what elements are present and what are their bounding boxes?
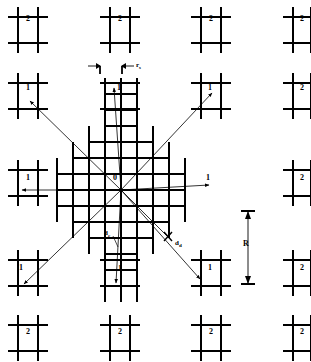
cell-label-r1c3: 2: [300, 84, 304, 92]
cell-label-r0c3: 2: [300, 15, 304, 23]
cell-label-r2c0: 1: [26, 174, 30, 182]
reuse-distance-label: R: [243, 240, 249, 248]
lattice-cell: [283, 73, 311, 119]
distance-dc-subscript: c: [108, 233, 110, 238]
cell-label-r4c3: 2: [300, 328, 304, 336]
cell-label-r0c1: 2: [118, 15, 122, 23]
cochannel-arrow-nw: [30, 101, 121, 190]
cell-radius-label: rs: [136, 62, 141, 69]
inner-marker-arrow: [121, 190, 172, 241]
lattice-cell: [8, 250, 48, 296]
cell-label-r3c0: 1: [19, 264, 23, 272]
lattice-cell: [283, 315, 311, 361]
cell-label-r3c3: 2: [300, 264, 304, 272]
lattice-cell: [283, 7, 311, 53]
cell-radius-marker: [88, 63, 134, 74]
cell-label-r2c2: 1: [206, 174, 210, 182]
cell-label-r4c1: 2: [118, 328, 122, 336]
cell-label-r0c2: 2: [209, 15, 213, 23]
cell-label-r2c3: 2: [300, 174, 304, 182]
lattice-cell: [8, 160, 48, 206]
reuse-lattice-figure: 2 2 2 2 1 1 1 2 1 0 1 2 1 1 1 2 2 2 2 2 …: [0, 0, 311, 362]
lattice-cell: [191, 73, 231, 119]
lattice-cell: [283, 160, 311, 206]
cell-label-r4c2: 2: [209, 328, 213, 336]
cochannel-arrow-se: [121, 190, 200, 279]
lattice-cell: [8, 315, 48, 361]
cell-label-r1c1: 1: [117, 84, 121, 92]
lattice-cell: [191, 250, 231, 296]
distance-dc-label: dc: [104, 230, 110, 237]
distance-dd-subscript: d: [179, 243, 182, 248]
cell-label-center: 0: [113, 174, 117, 182]
lattice-cell: [283, 250, 311, 296]
lattice-cell: [191, 315, 231, 361]
cell-label-r3c1: 1: [118, 265, 122, 273]
cell-label-r1c0: 1: [26, 84, 30, 92]
cell-label-r4c0: 2: [26, 328, 30, 336]
cell-label-r3c2: 1: [208, 264, 212, 272]
distance-dd-label: dd: [175, 240, 182, 247]
lattice-cell: [8, 73, 48, 119]
cell-radius-subscript: s: [139, 65, 141, 70]
cell-label-r0c0: 2: [26, 15, 30, 23]
lattice-drawing: [0, 0, 311, 362]
cell-label-r1c2: 1: [208, 84, 212, 92]
lattice-cell: [100, 315, 140, 361]
